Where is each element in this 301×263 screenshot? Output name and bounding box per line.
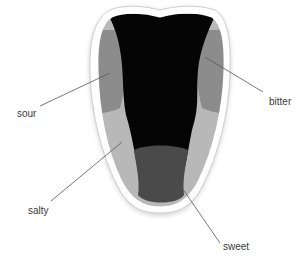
label-salty: salty [28, 205, 49, 216]
region-sweet [134, 146, 188, 203]
tongue-illustration [0, 0, 301, 263]
label-bitter: bitter [269, 96, 291, 107]
label-sweet: sweet [223, 241, 249, 252]
sweet-leader-line [180, 185, 220, 243]
label-sour: sour [17, 108, 36, 119]
tongue-diagram: sour bitter salty sweet [0, 0, 301, 263]
